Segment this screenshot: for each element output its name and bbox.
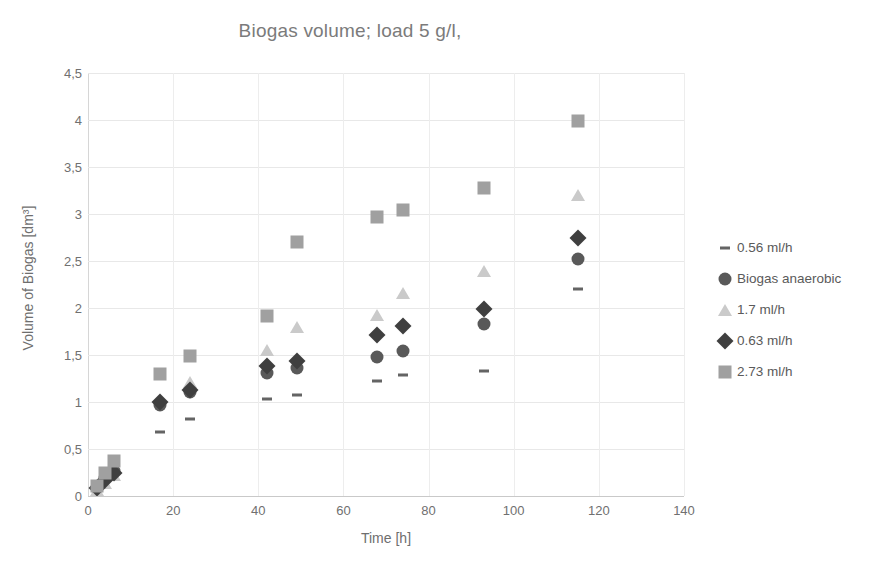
data-point-square [260,309,273,322]
data-point-square [184,349,197,362]
gridline-horizontal [88,308,684,309]
x-axis-tick-labels: 020406080100120140 [88,503,684,523]
data-point-square [99,467,112,480]
y-tick-label: 2,5 [36,254,82,269]
data-point-triangle [290,321,304,333]
legend-item-label: 0.63 ml/h [736,333,793,348]
gridline-vertical [684,73,685,496]
x-tick-label: 80 [404,503,454,518]
x-tick-label: 140 [659,503,709,518]
legend-item[interactable]: 2.73 ml/h [714,356,879,387]
x-tick-label: 60 [318,503,368,518]
gridline-horizontal [88,402,684,403]
y-tick-label: 1 [36,395,82,410]
chart-legend: 0.56 ml/hBiogas anaerobic1.7 ml/h0.63 ml… [714,232,879,387]
square-marker-icon [714,364,736,380]
triangle-marker-icon [714,302,736,318]
y-tick-label: 3 [36,207,82,222]
circle-marker-icon [714,271,736,287]
data-point-dash [372,380,382,383]
data-point-square [397,204,410,217]
legend-item-label: 1.7 ml/h [736,302,785,317]
gridline-vertical [173,73,174,496]
x-tick-label: 20 [148,503,198,518]
y-tick-label: 3,5 [36,160,82,175]
y-tick-label: 2 [36,301,82,316]
data-point-triangle [396,287,410,299]
data-point-dash [479,369,489,372]
data-point-dash [573,288,583,291]
gridline-horizontal [88,214,684,215]
x-tick-label: 120 [574,503,624,518]
y-tick-label: 4,5 [36,66,82,81]
legend-item[interactable]: 0.56 ml/h [714,232,879,263]
data-point-diamond [395,317,412,334]
gridline-horizontal [88,73,684,74]
gridline-horizontal [88,355,684,356]
x-axis-title: Time [h] [88,530,684,546]
gridline-horizontal [88,120,684,121]
gridline-horizontal [88,449,684,450]
data-point-square [371,210,384,223]
data-point-dash [292,394,302,397]
data-point-dash [398,373,408,376]
chart-title: Biogas volume; load 5 g/l, [0,20,700,42]
legend-item-label: 2.73 ml/h [736,364,793,379]
y-tick-label: 4 [36,113,82,128]
gridline-vertical [514,73,515,496]
diamond-marker-icon [714,333,736,349]
dash-marker-icon [714,240,736,256]
gridline-vertical [343,73,344,496]
data-point-dash [185,417,195,420]
x-tick-label: 100 [489,503,539,518]
gridline-vertical [429,73,430,496]
data-point-square [107,455,120,468]
data-point-circle [477,317,490,330]
x-tick-label: 0 [63,503,113,518]
data-point-dash [262,398,272,401]
y-tick-label: 0 [36,489,82,504]
chart-container: Biogas volume; load 5 g/l, Volume of Bio… [0,0,887,572]
data-point-square [290,236,303,249]
x-axis-line [88,496,684,497]
x-tick-label: 40 [233,503,283,518]
gridline-horizontal [88,167,684,168]
data-point-square [154,367,167,380]
y-tick-label: 0,5 [36,442,82,457]
data-point-diamond [569,229,586,246]
data-point-circle [571,253,584,266]
data-point-triangle [571,189,585,201]
data-point-circle [371,350,384,363]
data-point-square [90,479,103,492]
data-point-square [571,114,584,127]
legend-item[interactable]: 0.63 ml/h [714,325,879,356]
data-point-triangle [370,309,384,321]
data-point-triangle [260,344,274,356]
y-tick-label: 1,5 [36,348,82,363]
data-point-square [477,181,490,194]
gridline-horizontal [88,261,684,262]
y-axis-tick-labels: 00,511,522,533,544,5 [30,73,82,496]
legend-item-label: 0.56 ml/h [736,240,793,255]
gridline-vertical [599,73,600,496]
gridline-vertical [258,73,259,496]
legend-item[interactable]: 1.7 ml/h [714,294,879,325]
data-point-diamond [475,300,492,317]
data-point-circle [397,345,410,358]
data-point-triangle [477,265,491,277]
legend-item[interactable]: Biogas anaerobic [714,263,879,294]
data-point-dash [155,431,165,434]
data-point-diamond [369,327,386,344]
plot-area [88,73,684,496]
legend-item-label: Biogas anaerobic [736,271,841,286]
